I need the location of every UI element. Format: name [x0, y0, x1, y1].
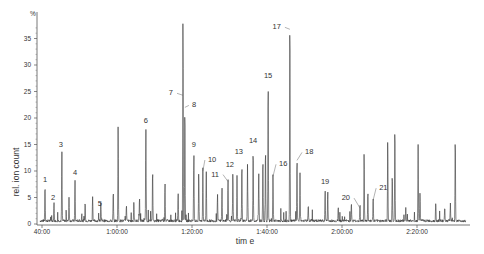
peak-leader-line [203, 160, 205, 171]
x-tick-label: 1:00:00 [106, 228, 128, 235]
peak-label-17: 17 [273, 22, 281, 31]
peak-label-7: 7 [169, 88, 173, 97]
x-tick-label: 1:40:00 [256, 228, 278, 235]
peak-label-12: 12 [226, 160, 234, 169]
peak-label-14: 14 [249, 136, 257, 145]
y-tick-label: 5 [27, 194, 31, 201]
peak-label-13: 13 [235, 147, 243, 156]
x-axis-title: tim e [236, 236, 255, 246]
x-axis-ticks: 40:001:00:001:20:001:40:002:00:002:20:00 [34, 225, 428, 235]
peak-leader-line [297, 152, 302, 160]
peak-leader-line [373, 188, 376, 200]
x-tick-label: 2:00:00 [331, 228, 353, 235]
y-axis-ticks: 05101520253035 [24, 28, 37, 227]
y-tick-label: 30 [24, 61, 32, 68]
peak-leader-line [285, 27, 290, 29]
peak-label-3: 3 [59, 140, 63, 149]
y-tick-label: 15 [24, 141, 32, 148]
peak-label-11: 11 [211, 170, 219, 179]
x-tick-label: 1:20:00 [181, 228, 203, 235]
peak-leader-line [185, 105, 189, 107]
peak-label-15: 15 [264, 71, 272, 80]
y-tick-label: 0 [27, 220, 31, 227]
peak-label-5: 5 [98, 199, 102, 208]
peak-label-10: 10 [208, 155, 216, 164]
plot-area [40, 24, 466, 222]
peak-label-16: 16 [279, 159, 287, 168]
y-axis-title: rel. ion count [11, 147, 21, 196]
peak-label-4: 4 [73, 168, 77, 177]
peak-label-19: 19 [321, 177, 329, 186]
peak-label-21: 21 [379, 183, 387, 192]
peak-labels: 123456789101112131415161718192021 [43, 22, 388, 208]
peak-label-8: 8 [192, 100, 196, 109]
peak-label-1: 1 [43, 175, 47, 184]
y-tick-label: 20 [24, 114, 32, 121]
peak-leader-line [354, 198, 360, 208]
peak-leader-line [177, 93, 183, 95]
x-tick-label: 40:00 [34, 228, 51, 235]
peak-leader-line [273, 164, 276, 176]
y-tick-label: 25 [24, 88, 32, 95]
peak-label-20: 20 [342, 193, 350, 202]
peak-label-6: 6 [144, 116, 148, 125]
peak-label-18: 18 [305, 147, 313, 156]
chromatogram-chart: 05101520253035 40:001:00:001:20:001:40:0… [0, 0, 484, 254]
y-tick-label: 10 [24, 167, 32, 174]
y-unit-label: % [30, 10, 36, 17]
y-tick-label: 35 [24, 35, 32, 42]
peak-leader-line [223, 175, 228, 182]
peak-label-2: 2 [51, 193, 55, 202]
peak-label-9: 9 [192, 140, 196, 149]
x-tick-label: 2:20:00 [406, 228, 428, 235]
chromatogram-trace [40, 24, 466, 222]
